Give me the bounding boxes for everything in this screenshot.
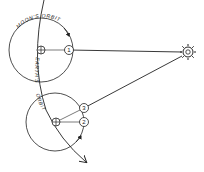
earths-label: EARTH'S: [34, 57, 41, 83]
moon1-sun-line: [69, 50, 182, 52]
moon3-sun-line: [84, 56, 182, 108]
sun-icon: [180, 44, 196, 60]
orbit-label: ORBIT: [35, 93, 48, 112]
moon-position-2: 2: [80, 118, 89, 127]
earths-orbit-path: [37, 0, 86, 162]
earth-icon: [37, 46, 45, 54]
orbit-diagram: 1 2 3 MOON'S ORB: [0, 0, 204, 172]
earth-icon: [52, 118, 60, 126]
moon-position-1: 1: [65, 46, 74, 55]
moon-position-3: 3: [80, 104, 89, 113]
